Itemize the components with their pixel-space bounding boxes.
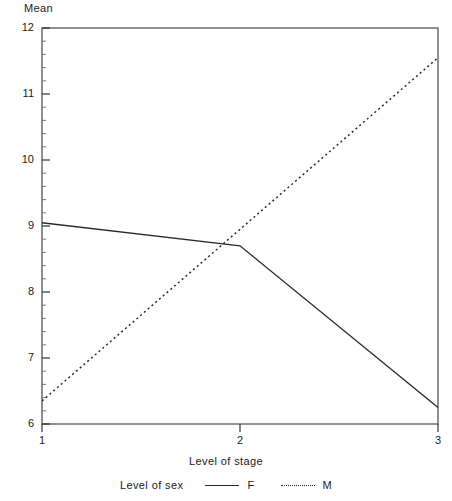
legend: Level of sexFM xyxy=(0,479,452,491)
plot-canvas xyxy=(0,0,452,501)
x-axis-title: Level of stage xyxy=(0,455,452,467)
legend-swatch-dotted-line-icon xyxy=(281,485,315,486)
legend-entry-f: F xyxy=(205,479,254,491)
series-f-line xyxy=(42,223,438,408)
y-tick-label-11: 11 xyxy=(8,87,34,99)
x-tick-label-2: 2 xyxy=(230,434,250,446)
y-tick-label-10: 10 xyxy=(8,153,34,165)
legend-swatch-solid-line-icon xyxy=(205,485,239,486)
plot-frame xyxy=(42,28,438,424)
y-tick-label-8: 8 xyxy=(8,285,34,297)
y-tick-label-6: 6 xyxy=(8,417,34,429)
x-tick-label-1: 1 xyxy=(32,434,52,446)
interaction-plot: Mean xyxy=(0,0,452,501)
legend-label-m: M xyxy=(323,479,333,491)
y-axis-major-ticks xyxy=(42,28,50,424)
x-tick-label-3: 3 xyxy=(428,434,448,446)
plot-border xyxy=(42,28,438,424)
y-tick-label-12: 12 xyxy=(8,21,34,33)
legend-title: Level of sex xyxy=(120,479,184,491)
x-axis-ticks xyxy=(42,424,438,432)
y-tick-label-9: 9 xyxy=(8,219,34,231)
y-tick-label-7: 7 xyxy=(8,351,34,363)
legend-label-f: F xyxy=(247,479,254,491)
legend-entry-m: M xyxy=(281,479,333,491)
